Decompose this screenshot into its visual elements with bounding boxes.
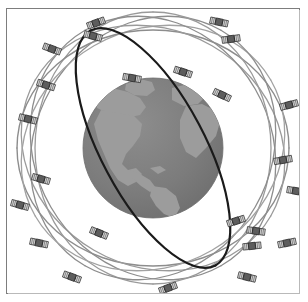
satellite-body-icon: [128, 74, 136, 82]
satellite-body-icon: [89, 32, 97, 40]
satellite-body-icon: [179, 68, 188, 77]
satellite-icon: [274, 155, 293, 165]
satellite-body-icon: [248, 242, 255, 249]
satellite-body-icon: [292, 187, 300, 195]
satellite-icon: [62, 271, 81, 284]
satellite-icon: [42, 43, 61, 56]
satellite-icon: [237, 272, 256, 283]
satellite-icon: [31, 173, 50, 184]
solar-panel-right-icon: [299, 188, 305, 195]
satellite-icon: [279, 99, 298, 110]
satellite-icon: [10, 199, 29, 210]
satellite-icon: [89, 226, 108, 239]
satellite-body-icon: [35, 239, 43, 247]
satellite-body-icon: [283, 239, 291, 247]
satellite-icon: [123, 73, 142, 83]
satellite-icon: [29, 238, 48, 248]
satellite-body-icon: [232, 217, 241, 226]
satellite-icon: [212, 88, 231, 102]
satellite-body-icon: [279, 156, 287, 164]
satellite-body-icon: [285, 101, 293, 109]
satellite-body-icon: [16, 201, 24, 209]
satellite-body-icon: [42, 81, 51, 90]
satellite-icon: [173, 66, 192, 78]
satellite-body-icon: [215, 18, 223, 26]
satellite-icon: [287, 186, 306, 196]
earth: [83, 78, 223, 218]
solar-panel-left-icon: [243, 243, 249, 250]
gps-constellation-figure: [0, 0, 308, 302]
satellite-body-icon: [227, 35, 235, 43]
satellite-icon: [83, 30, 102, 41]
satellite-body-icon: [243, 273, 251, 281]
satellite-body-icon: [252, 227, 260, 235]
solar-panel-right-icon: [255, 242, 261, 249]
solar-panel-rib-icon: [301, 189, 302, 195]
satellite-body-icon: [24, 115, 32, 123]
constellation-scene: [0, 0, 308, 302]
satellite-icon: [243, 242, 262, 251]
satellite-icon: [277, 238, 296, 248]
satellite-body-icon: [37, 175, 45, 183]
solar-panel-rib-icon: [303, 189, 304, 195]
